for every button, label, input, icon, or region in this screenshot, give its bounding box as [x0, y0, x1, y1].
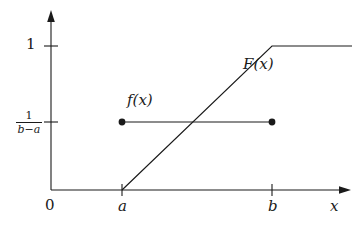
origin-label: 0 [45, 198, 55, 213]
pdf-endpoint-dot-left [119, 119, 126, 126]
plot-canvas [0, 0, 363, 227]
pdf-endpoint-dot-right [269, 119, 276, 126]
fraction-denominator: b−a [13, 123, 45, 135]
x-axis-name-label: x [330, 199, 338, 214]
y-axis [47, 10, 55, 190]
pdf-annotation-label: f(x) [127, 93, 153, 108]
y-axis-arrowhead [47, 10, 55, 22]
x-axis-label-b: b [268, 199, 278, 214]
x-axis-arrowhead [339, 186, 351, 194]
x-axis [51, 186, 351, 194]
y-axis-label-one: 1 [26, 37, 36, 52]
cdf-annotation-label: F(x) [243, 57, 274, 72]
y-axis-label-fraction: 1 b−a [13, 110, 45, 135]
uniform-distribution-figure: 1 1 b−a 0 a b x f(x) F(x) [0, 0, 363, 227]
cdf-curve [122, 46, 352, 190]
x-axis-label-a: a [118, 199, 127, 214]
fraction-numerator: 1 [13, 110, 45, 122]
